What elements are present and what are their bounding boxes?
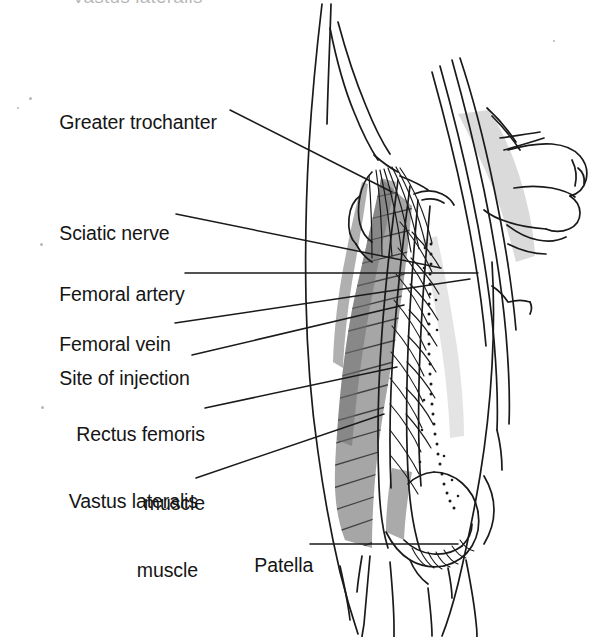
patella-superior-border [434,472,478,512]
label-rectus-femoris-line1: Rectus femoris [38,423,205,446]
label-patella: Patella [233,531,313,600]
hamstring-shade [422,236,464,438]
lower-leg-line-2 [390,562,394,637]
iliac-crest [330,28,378,160]
ischial-tuberosity-top [500,132,540,138]
scan-speck [17,107,19,109]
calf-line [357,556,362,592]
posterior-knee-upper [497,430,502,470]
anatomy-figure: Vastus lateralis [0,0,611,637]
medial-skin-fold-2 [509,301,530,303]
lower-leg-lateral [362,556,370,637]
scan-speck [41,406,44,409]
label-patella-text: Patella [254,554,313,576]
scan-speck [553,40,555,42]
label-vastus-lateralis-muscle: Vastus lateralis muscle [38,444,198,628]
knee-crease-1 [448,568,452,598]
acetabulum-notch [414,191,454,205]
upper-torso-line [327,4,331,124]
medial-skin-fold [492,286,508,302]
label-sciatic-nerve: Sciatic nerve [38,199,170,268]
leader-lines [175,110,478,544]
ischium-notch [572,160,576,186]
label-femoral-artery-text: Femoral artery [59,283,184,305]
label-sciatic-nerve-text: Sciatic nerve [59,222,169,244]
posterior-knee [484,476,494,544]
label-vastus-lateralis-line1: Vastus lateralis [38,490,198,513]
scan-speck [40,243,43,246]
medial-skin-fold-3 [530,302,532,314]
lower-leg-line-3 [428,588,432,636]
label-vastus-lateralis-line2: muscle [38,559,198,582]
calf-line-2 [340,566,350,620]
ischium-lower-lobe [546,196,580,231]
trochanter-top [374,155,398,172]
lower-leg-medial [466,560,477,637]
ischium-notch-2 [578,168,584,184]
acetabulum-notch-inner [422,199,444,203]
label-greater-trochanter-text: Greater trochanter [59,111,217,133]
scan-speck [29,97,32,100]
label-greater-trochanter: Greater trochanter [38,88,217,157]
